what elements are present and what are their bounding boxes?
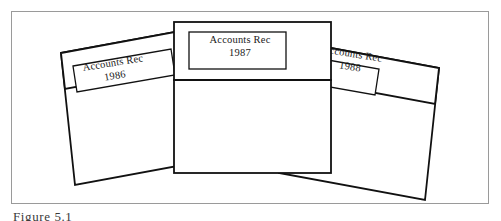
folder-center-label-line2: 1987: [190, 47, 290, 60]
folder-center-label-text: Accounts Rec 1987: [190, 34, 290, 60]
figure-caption: Figure 5.1: [13, 209, 72, 221]
folder-right-label-clip: Accounts Rec 1988: [331, 22, 451, 92]
folder-center-label-line1: Accounts Rec: [190, 34, 290, 47]
figure-canvas: Accounts Rec 1986 Accounts Rec 1987 Acco…: [0, 0, 501, 221]
folder-right-label-text: Accounts Rec 1988: [331, 40, 400, 81]
